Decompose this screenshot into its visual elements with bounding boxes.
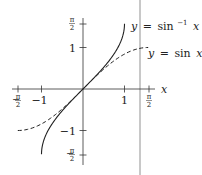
axis-ticks	[18, 24, 149, 155]
svg-text:2: 2	[147, 101, 151, 109]
chart: −π2−11π2π21−1−π2 x y = sin −1 x y = sin …	[0, 0, 202, 175]
svg-text:π: π	[70, 147, 75, 155]
label-y: y	[130, 20, 138, 33]
tick-label: −π2	[12, 93, 21, 109]
y-tick-label: 1	[69, 42, 76, 55]
x-tick-label: 1	[121, 94, 128, 107]
svg-text:2: 2	[70, 155, 74, 163]
sin-label: y = sin x	[147, 47, 202, 60]
svg-text:π: π	[70, 16, 75, 24]
tick-label: π2	[146, 93, 152, 109]
axes	[12, 18, 155, 165]
svg-text:2: 2	[16, 101, 20, 109]
tick-label: π2	[69, 16, 75, 32]
label-fn: sin	[157, 20, 173, 33]
label-sup: −1	[177, 19, 187, 27]
x-axis-label: x	[161, 83, 168, 96]
svg-text:π: π	[147, 93, 152, 101]
label-x: x	[193, 20, 200, 33]
x-tick-label: −1	[31, 94, 47, 107]
y-tick-label: −1	[60, 125, 76, 138]
svg-text:π: π	[16, 93, 21, 101]
label-fn: sin	[174, 47, 190, 60]
label-eq: =	[160, 47, 169, 60]
label-x: x	[196, 47, 202, 60]
tick-label: −π2	[66, 147, 75, 163]
label-y: y	[147, 47, 155, 60]
label-eq: =	[143, 20, 152, 33]
svg-text:2: 2	[70, 24, 74, 32]
